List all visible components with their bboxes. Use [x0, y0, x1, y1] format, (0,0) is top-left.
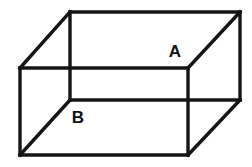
label-b: B [72, 108, 84, 127]
connector-bottom-left-edge [20, 100, 70, 155]
cuboid-figure: A B [0, 0, 252, 167]
connector-top-left-edge [20, 12, 70, 68]
connector-bottom-right-edge [188, 100, 240, 155]
label-a: A [169, 42, 181, 61]
connector-top-right-edge [188, 12, 240, 68]
cuboid-drawing: A B [0, 0, 252, 167]
